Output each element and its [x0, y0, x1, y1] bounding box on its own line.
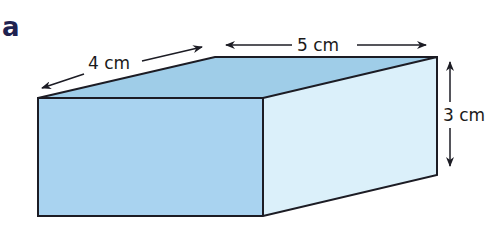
height-label: 3 cm [443, 105, 485, 125]
height-dimension: 3 cm [443, 62, 485, 166]
length-label: 5 cm [297, 35, 339, 55]
depth-arrow-right [142, 47, 202, 61]
depth-label: 4 cm [88, 53, 130, 73]
part-label: a [2, 12, 20, 42]
depth-arrow-left [42, 74, 84, 88]
cuboid-diagram: a 4 cm 5 cm 3 cm [0, 0, 504, 236]
length-dimension: 5 cm [226, 35, 426, 55]
front-face [38, 98, 263, 216]
